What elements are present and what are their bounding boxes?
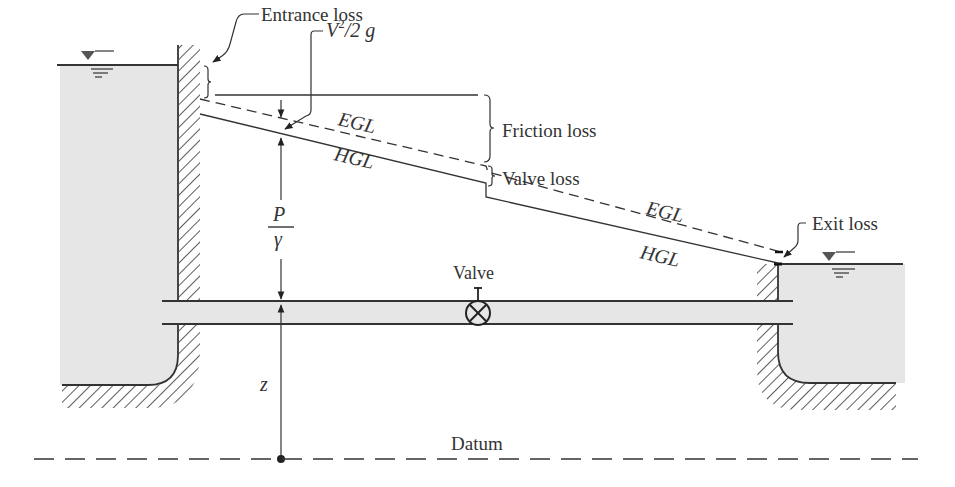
pressure-head-denominator: γ <box>274 228 283 251</box>
valve-loss-brace <box>488 166 495 186</box>
valve-icon <box>466 287 490 325</box>
entrance-loss-brace <box>204 66 211 98</box>
elevation-head-label: z <box>259 373 268 395</box>
friction-loss-brace <box>484 95 494 162</box>
entrance-loss-leader <box>213 14 259 62</box>
hydraulic-grade-line <box>200 114 778 263</box>
valve-label: Valve <box>453 263 494 283</box>
elevation-head-arrow <box>277 305 285 463</box>
hgl-label-upper: HGL <box>331 142 376 173</box>
exit-loss-leader <box>784 223 806 257</box>
egl-label-lower: EGL <box>643 196 686 226</box>
downstream-reservoir <box>778 264 905 383</box>
pressure-head-label: P γ <box>268 203 294 251</box>
pressure-head-numerator: P <box>272 203 285 225</box>
velocity-head-label: V2/2 g <box>326 16 375 42</box>
valve-loss-label: Valve loss <box>502 168 580 189</box>
velocity-head-leader <box>285 31 323 129</box>
exit-loss-label: Exit loss <box>812 213 878 234</box>
friction-loss-label: Friction loss <box>502 120 596 141</box>
datum-label: Datum <box>451 433 503 454</box>
diagram-canvas: Entrance loss V2/2 g Friction loss Valve… <box>0 0 955 487</box>
upstream-reservoir <box>57 65 178 385</box>
velocity-head-rest: /2 g <box>344 19 376 42</box>
hgl-label-lower: HGL <box>637 240 682 271</box>
